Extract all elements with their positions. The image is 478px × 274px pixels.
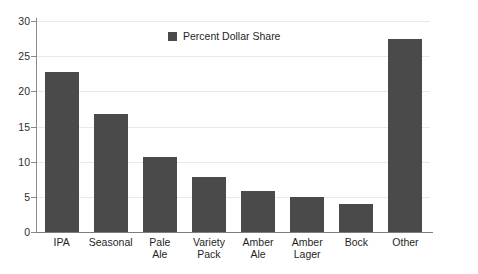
x-tick-label: IPA (34, 236, 90, 248)
bar-group[interactable] (45, 72, 79, 232)
y-tick-label: 10 (4, 157, 30, 167)
x-tick-label: PaleAle (132, 236, 188, 260)
bar[interactable] (45, 72, 79, 232)
y-axis-line (36, 18, 37, 233)
bar-group[interactable] (339, 204, 373, 232)
y-tick-label: 0 (4, 227, 30, 237)
y-tick-mark (31, 127, 36, 128)
bar-group[interactable] (94, 114, 128, 232)
bar-group[interactable] (290, 197, 324, 232)
x-tick-label: Seasonal (83, 236, 139, 248)
legend-label: Percent Dollar Share (183, 31, 280, 42)
x-tick-label-line: Ale (132, 248, 188, 260)
legend: Percent Dollar Share (168, 31, 280, 42)
y-tick-label: 30 (4, 16, 30, 26)
x-tick-label: Bock (328, 236, 384, 248)
gridline (36, 91, 430, 92)
x-tick-label: Other (377, 236, 433, 248)
y-tick-mark (31, 56, 36, 57)
y-tick-label: 5 (4, 192, 30, 202)
bar-group[interactable] (388, 39, 422, 232)
bar-group[interactable] (241, 191, 275, 232)
bar[interactable] (339, 204, 373, 232)
x-tick-label-line: Amber (279, 236, 335, 248)
x-tick-label-line: Variety (181, 236, 237, 248)
x-tick-label-line: IPA (34, 236, 90, 248)
bar[interactable] (94, 114, 128, 232)
x-tick-label-line: Other (377, 236, 433, 248)
bar[interactable] (241, 191, 275, 232)
bar[interactable] (143, 157, 177, 232)
y-tick-label: 15 (4, 122, 30, 132)
y-tick-label: 20 (4, 86, 30, 96)
bar-chart-figure: 051015202530 IPASeasonalPaleAleVarietyPa… (0, 0, 478, 274)
y-tick-mark (31, 21, 36, 22)
y-tick-mark (31, 232, 36, 233)
x-tick-label-line: Bock (328, 236, 384, 248)
bar[interactable] (192, 177, 226, 232)
y-axis: 051015202530 (0, 0, 30, 274)
x-tick-label: AmberAle (230, 236, 286, 260)
square-swatch-icon (168, 32, 177, 41)
y-tick-mark (31, 162, 36, 163)
x-tick-label: AmberLager (279, 236, 335, 260)
x-tick-label-line: Lager (279, 248, 335, 260)
x-tick-label: VarietyPack (181, 236, 237, 260)
x-tick-label-line: Pack (181, 248, 237, 260)
x-axis-line (33, 232, 433, 233)
y-tick-mark (31, 91, 36, 92)
bar-group[interactable] (143, 157, 177, 232)
bar[interactable] (290, 197, 324, 232)
bar[interactable] (388, 39, 422, 232)
y-tick-mark (31, 197, 36, 198)
x-tick-label-line: Seasonal (83, 236, 139, 248)
bar-group[interactable] (192, 177, 226, 232)
gridline (36, 56, 430, 57)
x-tick-label-line: Pale (132, 236, 188, 248)
gridline (36, 21, 430, 22)
x-tick-label-line: Amber (230, 236, 286, 248)
x-tick-label-line: Ale (230, 248, 286, 260)
y-tick-label: 25 (4, 51, 30, 61)
